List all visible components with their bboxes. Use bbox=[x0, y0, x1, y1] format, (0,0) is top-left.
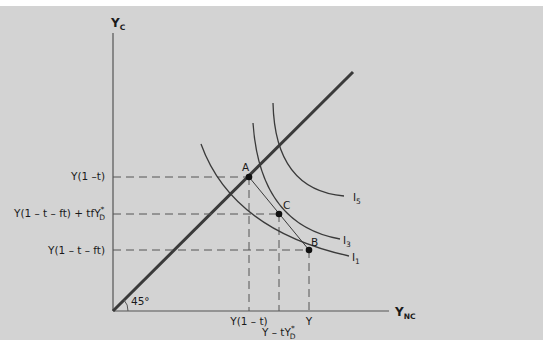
angle-arc bbox=[124, 300, 128, 311]
point-c-label: C bbox=[283, 199, 290, 211]
curve-label-i3: I3 bbox=[343, 234, 351, 249]
point-a bbox=[246, 174, 253, 181]
curve-label-i5: I5 bbox=[353, 191, 361, 206]
x-tick-label-3: Y bbox=[305, 315, 313, 327]
x-axis-label: YNC bbox=[394, 305, 416, 321]
angle-label: 45° bbox=[131, 295, 150, 307]
y-tick-label-2: Y(1 – t – ft) + tfY*D bbox=[13, 205, 105, 222]
x-tick-label-2: Y – tY*D bbox=[261, 324, 296, 341]
y-tick-label-3: Y(1 – t – ft) bbox=[47, 244, 105, 256]
curve-label-i1: I1 bbox=[352, 251, 360, 266]
point-b-label: B bbox=[311, 236, 318, 248]
indifference-curve-i3 bbox=[253, 123, 340, 239]
point-a-label: A bbox=[242, 161, 250, 173]
forty-five-degree-line bbox=[113, 72, 353, 311]
y-tick-label-1: Y(1 –t) bbox=[70, 170, 105, 182]
indifference-curve-diagram: YC YNC 45° A C B I5 I3 I1 Y(1 –t) Y(1 – … bbox=[0, 0, 551, 352]
point-c bbox=[276, 211, 283, 218]
y-axis-label: YC bbox=[110, 16, 126, 32]
